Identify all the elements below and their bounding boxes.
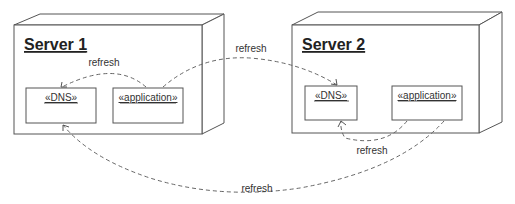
edge-label: refresh [235, 43, 266, 54]
edge-label: refresh [356, 145, 387, 156]
node-top-face [14, 14, 224, 25]
node-title: Server 1 [24, 36, 87, 53]
component-dns[interactable]: «DNS» [305, 86, 357, 120]
edge-label: refresh [88, 57, 119, 68]
node-side-face [479, 12, 502, 133]
component-application[interactable]: «application» [113, 88, 183, 123]
component-label: «DNS» [315, 90, 348, 101]
node-server-2[interactable]: Server 2 «DNS» «application» [292, 12, 502, 133]
deployment-diagram: Server 1 «DNS» «application» Server 2 «D… [0, 0, 515, 204]
node-top-face [292, 12, 502, 25]
edge-label: refresh [241, 183, 272, 194]
component-label: «application» [398, 90, 457, 101]
node-side-face [202, 14, 224, 134]
component-label: «application» [119, 92, 178, 103]
component-application[interactable]: «application» [392, 86, 462, 120]
component-label: «DNS» [45, 92, 78, 103]
node-title: Server 2 [302, 36, 365, 53]
component-dns[interactable]: «DNS» [26, 88, 96, 123]
